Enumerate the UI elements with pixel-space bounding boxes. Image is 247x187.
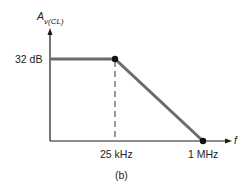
unity-frequency-label: 1 MHz [188, 149, 218, 160]
unity-gain-point-dot [200, 138, 206, 144]
y-level-label: 32 dB [15, 54, 42, 65]
x-axis-label: f [234, 135, 237, 146]
y-axis-label-main: A [37, 10, 44, 22]
y-axis-label: Av(CL) [37, 11, 64, 22]
corner-point-dot [112, 56, 118, 62]
y-axis-label-subscript: v(CL) [44, 17, 64, 26]
y-axis-arrow-icon [48, 28, 53, 35]
x-axis-arrow-icon [225, 139, 232, 144]
corner-frequency-label: 25 kHz [100, 149, 133, 160]
gain-response-curve [50, 59, 203, 141]
figure-caption: (b) [115, 170, 128, 181]
